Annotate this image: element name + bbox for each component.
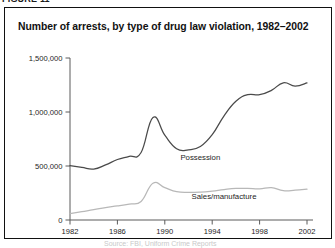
x-axis-tick-label: 2002	[299, 227, 316, 236]
line-chart-svg: 0500,0001,000,0001,500,000 1982198619901…	[5, 8, 332, 239]
series-label: Sales/manufacture	[192, 192, 257, 201]
x-axis-tick-label: 1990	[156, 227, 173, 236]
figure-container: Number of arrests, by type of drug law v…	[4, 7, 332, 239]
bottom-clipped-text: Source: FBI, Uniform Crime Reports	[0, 240, 335, 248]
bottom-clipped-fragment: Source: FBI, Uniform Crime Reports	[0, 240, 335, 247]
series-label: Possession	[180, 153, 220, 162]
x-axis-tick-label: 1998	[251, 227, 268, 236]
series-labels-group: PossessionSales/manufacture	[180, 153, 256, 202]
series-line	[70, 182, 307, 213]
y-axis-tick-label: 500,000	[35, 162, 62, 171]
x-axis-tick-label: 1986	[109, 227, 126, 236]
x-axis-tick-label: 1982	[62, 227, 79, 236]
data-series-group	[70, 83, 307, 214]
y-axis-tick-label: 0	[58, 216, 62, 225]
x-axis-tick-label: 1994	[204, 227, 221, 236]
chart-plot-area: 0500,0001,000,0001,500,000 1982198619901…	[5, 8, 332, 239]
x-axis: 198219861990199419982002	[62, 220, 316, 236]
top-clipped-text: FIGURE 11	[0, 0, 335, 3]
y-axis-tick-label: 1,500,000	[29, 54, 63, 63]
y-axis-tick-label: 1,000,000	[29, 108, 63, 117]
y-axis: 0500,0001,000,0001,500,000	[29, 54, 70, 225]
top-clipped-fragment: FIGURE 11	[0, 0, 335, 3]
